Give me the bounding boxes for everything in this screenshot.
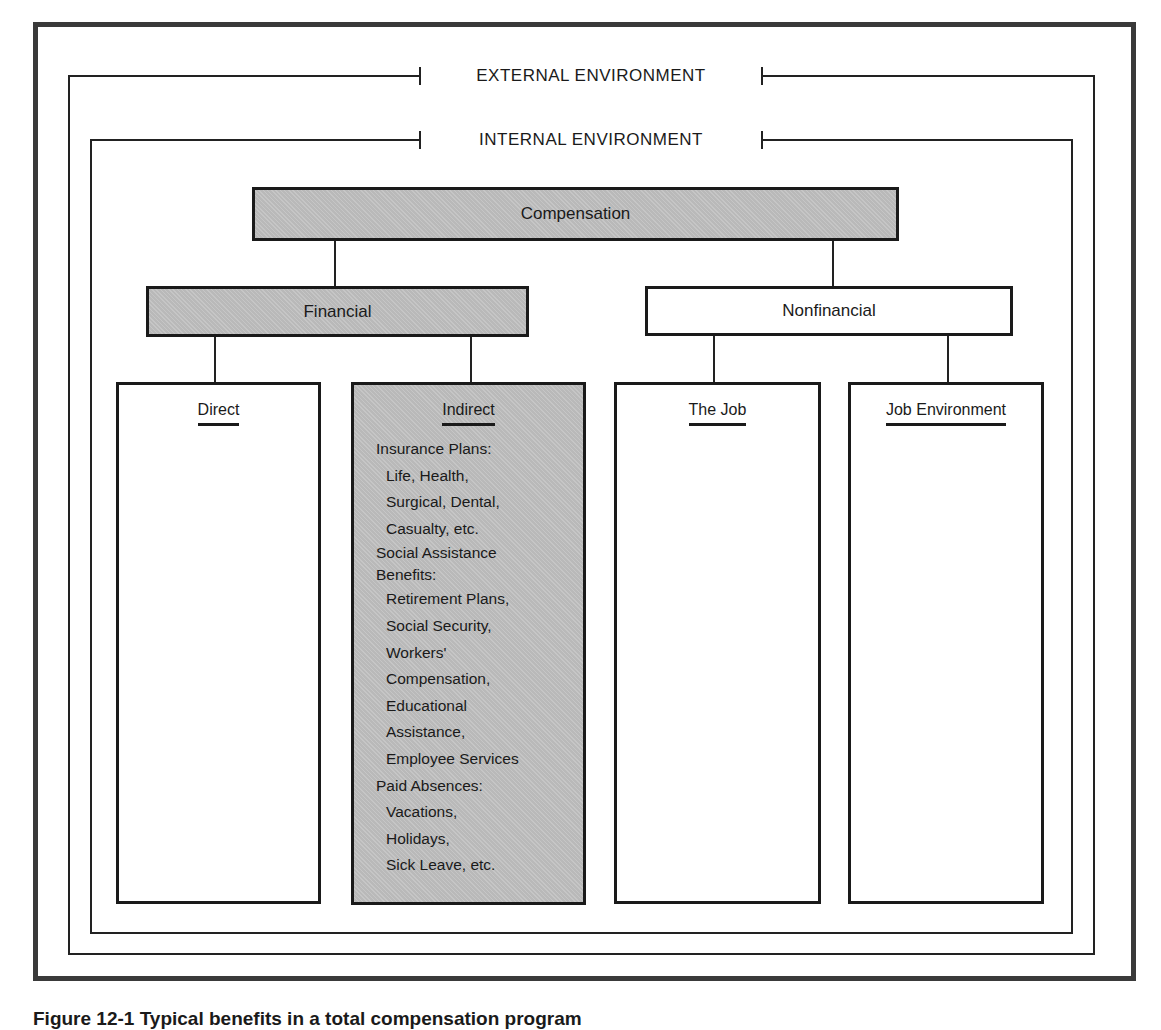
list-item: Workers' [376, 640, 583, 667]
social-assistance-heading: Social Assistance [376, 542, 583, 564]
internal-bracket-tick-right [761, 131, 763, 149]
paid-absences-heading: Paid Absences: [376, 773, 583, 800]
direct-title: Direct [198, 401, 240, 426]
list-item: Life, Health, [376, 463, 583, 490]
indirect-column: Indirect Insurance Plans: Life, Health, … [351, 382, 586, 905]
list-item: Employee Services [376, 746, 583, 773]
list-item: Educational [376, 693, 583, 720]
connector-compensation-financial [334, 241, 336, 287]
compensation-node: Compensation [252, 187, 899, 241]
external-bracket-tick-right [761, 67, 763, 85]
financial-label: Financial [303, 302, 371, 322]
list-item: Holidays, [376, 826, 583, 853]
external-bracket-tick-left [419, 67, 421, 85]
external-environment-label: EXTERNAL ENVIRONMENT [421, 64, 761, 88]
internal-bracket-tick-left [419, 131, 421, 149]
direct-column: Direct [116, 382, 321, 904]
nonfinancial-node: Nonfinancial [645, 286, 1013, 336]
connector-financial-indirect [470, 337, 472, 383]
list-item: Vacations, [376, 799, 583, 826]
insurance-plans-heading: Insurance Plans: [376, 436, 583, 463]
nonfinancial-label: Nonfinancial [782, 301, 876, 321]
internal-environment-label: INTERNAL ENVIRONMENT [421, 128, 761, 152]
list-item: Assistance, [376, 719, 583, 746]
list-item: Casualty, etc. [376, 516, 583, 543]
financial-node: Financial [146, 286, 529, 337]
the-job-title: The Job [689, 401, 747, 426]
list-item: Social Security, [376, 613, 583, 640]
figure-caption: Figure 12-1 Typical benefits in a total … [33, 1008, 582, 1030]
the-job-column: The Job [614, 382, 821, 904]
social-assistance-heading-cont: Benefits: [376, 564, 583, 586]
connector-financial-direct [214, 337, 216, 383]
indirect-benefits-list: Insurance Plans: Life, Health, Surgical,… [354, 436, 583, 879]
compensation-label: Compensation [521, 204, 631, 224]
list-item: Sick Leave, etc. [376, 852, 583, 879]
connector-nonfinancial-job-environment [947, 336, 949, 383]
list-item: Surgical, Dental, [376, 489, 583, 516]
job-environment-title: Job Environment [886, 401, 1006, 426]
list-item: Retirement Plans, [376, 586, 583, 613]
connector-compensation-nonfinancial [832, 241, 834, 287]
list-item: Compensation, [376, 666, 583, 693]
indirect-title: Indirect [442, 401, 494, 426]
job-environment-column: Job Environment [848, 382, 1044, 904]
connector-nonfinancial-the-job [713, 336, 715, 383]
